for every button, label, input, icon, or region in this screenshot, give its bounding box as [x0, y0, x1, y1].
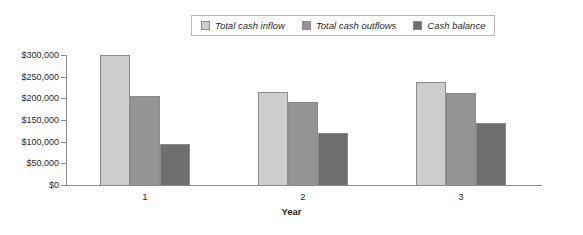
legend-swatch-total-cash-inflow — [201, 21, 210, 30]
legend-swatch-cash-balance — [413, 21, 422, 30]
y-axis-tick-label: $50,000 — [26, 158, 59, 168]
y-axis-tick-mark — [61, 120, 66, 121]
y-axis-tick-mark — [61, 185, 66, 186]
chart-legend: Total cash inflow Total cash outflows Ca… — [191, 15, 495, 36]
bar-cash-balance-year-1 — [160, 144, 190, 185]
y-axis-tick-mark — [61, 55, 66, 56]
bar-total-cash-outflows-year-2 — [288, 102, 318, 185]
legend-swatch-total-cash-outflows — [302, 21, 311, 30]
bar-group-year-1 — [100, 55, 190, 185]
x-axis-category-label: 2 — [300, 191, 305, 202]
y-axis-labels: $300,000$250,000$200,000$150,000$100,000… — [0, 0, 59, 235]
x-axis-line — [66, 185, 542, 186]
y-axis-tick-mark — [61, 142, 66, 143]
y-axis-tick-label: $100,000 — [21, 137, 59, 147]
bar-cash-balance-year-2 — [318, 133, 348, 185]
bar-total-cash-outflows-year-3 — [446, 93, 476, 185]
legend-item-total-cash-inflow: Total cash inflow — [201, 21, 285, 31]
legend-label-total-cash-outflows: Total cash outflows — [316, 21, 396, 31]
bar-total-cash-inflow-year-3 — [416, 82, 446, 185]
y-axis-tick-label: $0 — [49, 180, 59, 190]
bar-total-cash-inflow-year-1 — [100, 55, 130, 185]
bar-chart: Total cash inflow Total cash outflows Ca… — [0, 0, 583, 235]
y-axis-tick-label: $150,000 — [21, 115, 59, 125]
plot-area — [66, 55, 540, 185]
legend-item-cash-balance: Cash balance — [413, 21, 485, 31]
x-axis-category-label: 3 — [458, 191, 463, 202]
bar-total-cash-outflows-year-1 — [130, 96, 160, 185]
y-axis-tick-label: $200,000 — [21, 93, 59, 103]
y-axis-tick-mark — [61, 98, 66, 99]
x-axis-title: Year — [0, 206, 583, 217]
bar-group-year-3 — [416, 55, 506, 185]
bar-group-year-2 — [258, 55, 348, 185]
x-axis-category-label: 1 — [142, 191, 147, 202]
y-axis-tick-mark — [61, 77, 66, 78]
legend-item-total-cash-outflows: Total cash outflows — [302, 21, 396, 31]
y-axis-tick-label: $250,000 — [21, 72, 59, 82]
bar-cash-balance-year-3 — [476, 123, 506, 185]
bar-total-cash-inflow-year-2 — [258, 92, 288, 185]
y-axis-tick-label: $300,000 — [21, 50, 59, 60]
y-axis-tick-mark — [61, 163, 66, 164]
legend-label-cash-balance: Cash balance — [427, 21, 485, 31]
legend-label-total-cash-inflow: Total cash inflow — [215, 21, 285, 31]
